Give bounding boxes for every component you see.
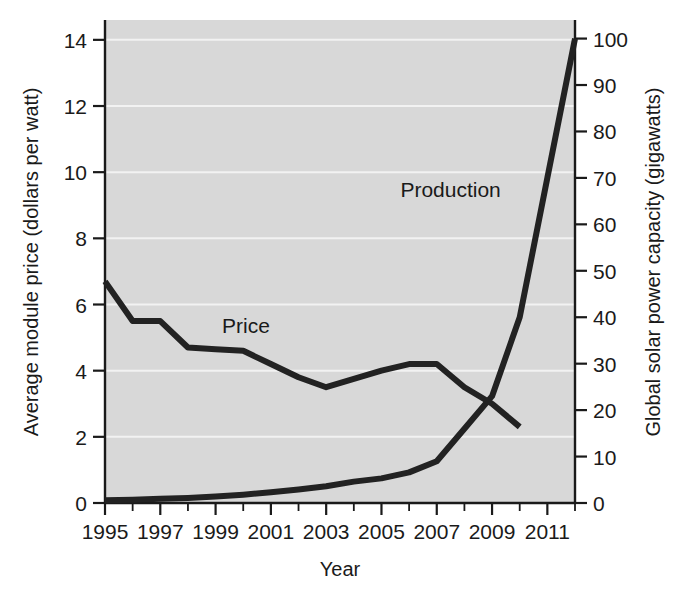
- y-tick-label-left: 4: [75, 360, 87, 383]
- y-tick-label-left: 14: [64, 29, 88, 52]
- x-tick-label: 2009: [469, 520, 516, 543]
- y-axis-right-title: Global solar power capacity (gigawatts): [642, 87, 664, 436]
- y-tick-label-left: 2: [75, 426, 87, 449]
- y-tick-label-right: 30: [593, 353, 616, 376]
- x-tick-label: 1997: [137, 520, 184, 543]
- production-series-annotation: Production: [400, 178, 500, 201]
- x-tick-label: 2003: [303, 520, 350, 543]
- x-tick-label: 2007: [413, 520, 460, 543]
- y-tick-label-right: 70: [593, 167, 616, 190]
- y-tick-label-right: 10: [593, 446, 616, 469]
- y-tick-label-left: 6: [75, 294, 87, 317]
- y-tick-label-right: 50: [593, 260, 616, 283]
- x-axis-title: Year: [320, 558, 361, 580]
- y-tick-label-left: 8: [75, 227, 87, 250]
- x-tick-label: 1999: [192, 520, 239, 543]
- y-tick-label-right: 20: [593, 399, 616, 422]
- y-tick-label-left: 0: [75, 492, 87, 515]
- y-tick-label-right: 0: [593, 492, 605, 515]
- y-tick-label-left: 12: [64, 95, 87, 118]
- y-tick-label-right: 60: [593, 213, 616, 236]
- x-tick-label: 2005: [358, 520, 405, 543]
- price-series-annotation: Price: [222, 314, 270, 337]
- x-tick-label: 1995: [82, 520, 129, 543]
- y-axis-left-title: Average module price (dollars per watt): [20, 88, 42, 437]
- dual-axis-line-chart: 199519971999200120032005200720092011 024…: [0, 0, 693, 591]
- x-tick-label: 2001: [248, 520, 295, 543]
- plot-area-background: [105, 20, 575, 503]
- y-tick-label-right: 100: [593, 28, 628, 51]
- y-tick-label-right: 90: [593, 74, 616, 97]
- y-tick-label-left: 10: [64, 161, 87, 184]
- x-tick-label: 2011: [525, 520, 570, 543]
- chart-figure: 199519971999200120032005200720092011 024…: [0, 0, 693, 591]
- y-tick-label-right: 80: [593, 120, 616, 143]
- y-tick-label-right: 40: [593, 306, 616, 329]
